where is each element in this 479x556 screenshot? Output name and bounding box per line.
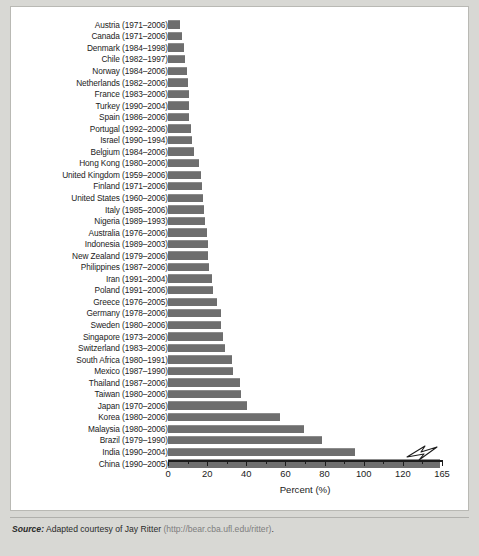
bar-rows-container: Austria (1971–2006)Canada (1971–2006)Den… bbox=[11, 19, 470, 469]
figure-card: Austria (1971–2006)Canada (1971–2006)Den… bbox=[10, 6, 469, 511]
bar bbox=[168, 55, 185, 63]
chart-row: Korea (1980–2006) bbox=[11, 412, 470, 424]
bar bbox=[168, 101, 189, 109]
bar bbox=[168, 43, 184, 51]
category-label: Italy (1985–2006) bbox=[105, 205, 168, 213]
axis-tick-major bbox=[246, 460, 247, 466]
chart-row: Sweden (1980–2006) bbox=[11, 319, 470, 331]
category-label: Indonesia (1989–2003) bbox=[85, 240, 168, 248]
category-label: Spain (1986–2006) bbox=[99, 113, 168, 121]
category-label: Malaysia (1980–2006) bbox=[88, 425, 168, 433]
chart-row: Singapore (1973–2006) bbox=[11, 331, 470, 343]
axis-tick-minor bbox=[305, 460, 306, 464]
category-label: Portugal (1992–2006) bbox=[90, 125, 168, 133]
chart-row: South Africa (1980–1991) bbox=[11, 354, 470, 366]
chart-row: Taiwan (1980–2006) bbox=[11, 389, 470, 401]
chart-row: Norway (1984–2006) bbox=[11, 65, 470, 77]
chart-row: Iran (1991–2004) bbox=[11, 273, 470, 285]
chart-row: India (1990–2004) bbox=[11, 446, 470, 458]
category-label: Germany (1978–2006) bbox=[86, 309, 168, 317]
axis-tick-label: 60 bbox=[280, 468, 290, 479]
bar bbox=[168, 448, 355, 456]
bar bbox=[168, 251, 208, 259]
chart-row: Turkey (1990–2004) bbox=[11, 100, 470, 112]
bar bbox=[168, 205, 204, 213]
axis-tick-major bbox=[168, 460, 169, 466]
category-label: Mexico (1987–1990) bbox=[94, 367, 168, 375]
chart-row: France (1983–2006) bbox=[11, 88, 470, 100]
category-label: Australia (1976–2006) bbox=[88, 228, 168, 236]
category-label: Chile (1982–1997) bbox=[101, 55, 168, 63]
bar bbox=[168, 401, 247, 409]
category-label: United States (1960–2006) bbox=[71, 194, 168, 202]
axis-tick-label: 100 bbox=[356, 468, 372, 479]
category-label: Singapore (1973–2006) bbox=[83, 332, 168, 340]
category-label: Brazil (1979–1990) bbox=[100, 436, 168, 444]
category-label: Taiwan (1980–2006) bbox=[95, 390, 168, 398]
category-label: Norway (1984–2006) bbox=[92, 67, 168, 75]
category-label: Finland (1971–2006) bbox=[93, 182, 168, 190]
bar bbox=[168, 390, 241, 398]
source-label: Source: bbox=[12, 524, 44, 534]
chart-row: Malaysia (1980–2006) bbox=[11, 423, 470, 435]
category-label: Hong Kong (1980–2006) bbox=[79, 159, 168, 167]
chart-row: Chile (1982–1997) bbox=[11, 54, 470, 66]
bar bbox=[168, 90, 189, 98]
axis-tick-minor bbox=[383, 460, 384, 464]
chart-row: Portugal (1992–2006) bbox=[11, 123, 470, 135]
category-label: Nigeria (1989–1993) bbox=[94, 217, 168, 225]
chart-row: Indonesia (1989–2003) bbox=[11, 238, 470, 250]
chart-row: Germany (1978–2006) bbox=[11, 308, 470, 320]
category-label: Switzerland (1983–2006) bbox=[78, 344, 168, 352]
bar bbox=[168, 263, 209, 271]
axis-tick-label: 165 bbox=[434, 468, 450, 479]
category-label: Netherlands (1982–2006) bbox=[76, 78, 168, 86]
source-url[interactable]: (http://bear.cba.ufl.edu/ritter) bbox=[163, 524, 271, 534]
category-label: Poland (1991–2006) bbox=[95, 286, 168, 294]
category-label: Belgium (1984–2006) bbox=[91, 148, 168, 156]
chart-row: Thailand (1987–2006) bbox=[11, 377, 470, 389]
bar bbox=[168, 78, 188, 86]
category-label: Denmark (1984–1998) bbox=[87, 44, 168, 52]
axis-tick-minor bbox=[188, 460, 189, 464]
chart-row: Belgium (1984–2006) bbox=[11, 146, 470, 158]
bar bbox=[168, 171, 201, 179]
chart-row: Brazil (1979–1990) bbox=[11, 435, 470, 447]
category-label: Canada (1971–2006) bbox=[91, 32, 168, 40]
axis-tick-major bbox=[442, 460, 443, 466]
x-axis-title: Percent (%) bbox=[168, 484, 442, 495]
chart-row: Philippines (1987–2006) bbox=[11, 261, 470, 273]
axis-tick-label: 80 bbox=[319, 468, 329, 479]
category-label: Sweden (1980–2006) bbox=[90, 321, 168, 329]
bar bbox=[168, 425, 304, 433]
category-label: Japan (1970–2006) bbox=[98, 402, 168, 410]
chart-row: Italy (1985–2006) bbox=[11, 204, 470, 216]
axis-tick-minor bbox=[344, 460, 345, 464]
bar bbox=[168, 298, 217, 306]
category-label: Korea (1980–2006) bbox=[98, 413, 168, 421]
bar bbox=[168, 113, 189, 121]
chart-row: Hong Kong (1980–2006) bbox=[11, 158, 470, 170]
bar bbox=[168, 286, 213, 294]
chart-row: New Zealand (1979–2006) bbox=[11, 250, 470, 262]
bar bbox=[168, 344, 225, 352]
axis-tick-label: 40 bbox=[241, 468, 251, 479]
axis-tick-label: 20 bbox=[202, 468, 212, 479]
bar bbox=[168, 274, 212, 282]
chart-row: Finland (1971–2006) bbox=[11, 181, 470, 193]
chart-row: United Kingdom (1959–2006) bbox=[11, 169, 470, 181]
chart-row: Greece (1976–2005) bbox=[11, 296, 470, 308]
bar bbox=[168, 309, 221, 317]
bar bbox=[168, 355, 232, 363]
chart-row: Austria (1971–2006) bbox=[11, 19, 470, 31]
axis-tick-minor bbox=[422, 460, 423, 464]
chart-row: Switzerland (1983–2006) bbox=[11, 342, 470, 354]
category-label: United Kingdom (1959–2006) bbox=[62, 171, 168, 179]
axis-tick-label: 0 bbox=[165, 468, 170, 479]
category-label: France (1983–2006) bbox=[95, 90, 168, 98]
footer-divider bbox=[10, 517, 469, 518]
category-label: Turkey (1990–2004) bbox=[95, 101, 168, 109]
bar bbox=[168, 159, 199, 167]
bar bbox=[168, 32, 182, 40]
chart-row: United States (1960–2006) bbox=[11, 192, 470, 204]
